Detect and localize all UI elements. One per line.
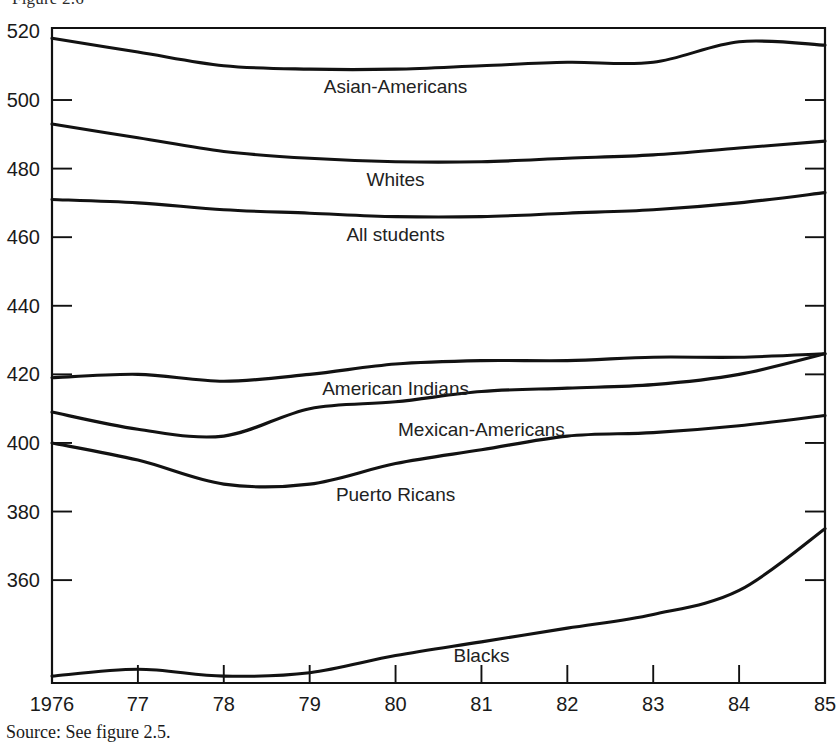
x-tick-label: 82: [556, 693, 578, 715]
x-tick-label: 85: [814, 693, 836, 715]
x-tick-label: 80: [384, 693, 406, 715]
x-axis-ticks: [138, 665, 739, 683]
x-tick-label: 84: [728, 693, 750, 715]
source-note: Source: See figure 2.5.: [6, 722, 170, 743]
series-label: All students: [346, 224, 444, 245]
y-axis-ticks-right: [805, 100, 825, 580]
series-label: American Indians: [322, 378, 469, 399]
y-tick-label: 400: [7, 432, 40, 454]
x-tick-label: 77: [127, 693, 149, 715]
y-axis-ticks: [52, 100, 72, 580]
series-label: Asian-Americans: [324, 76, 468, 97]
x-tick-label: 79: [299, 693, 321, 715]
series-label: Blacks: [453, 645, 509, 666]
x-tick-label: 81: [470, 693, 492, 715]
y-tick-label: 480: [7, 158, 40, 180]
figure-container: Figure 2.6 520500480460440420400380360 1…: [0, 0, 839, 746]
plot-frame: [52, 28, 825, 683]
series-line: [52, 124, 825, 162]
y-tick-label: 440: [7, 295, 40, 317]
y-tick-label: 520: [7, 20, 40, 42]
line-chart: 520500480460440420400380360 197677787980…: [0, 0, 839, 746]
y-tick-label: 460: [7, 226, 40, 248]
series-label: Mexican-Americans: [398, 419, 565, 440]
x-tick-label: 78: [213, 693, 235, 715]
series-lines: [52, 38, 825, 676]
series-line: [52, 38, 825, 69]
y-tick-label: 420: [7, 363, 40, 385]
x-tick-label: 83: [642, 693, 664, 715]
series-label: Whites: [367, 169, 425, 190]
series-labels: Asian-AmericansWhitesAll studentsAmerica…: [322, 76, 565, 666]
x-axis-tick-labels: 1976777879808182838485: [30, 693, 836, 715]
y-axis-tick-labels: 520500480460440420400380360: [7, 20, 40, 591]
y-tick-label: 360: [7, 569, 40, 591]
y-tick-label: 380: [7, 501, 40, 523]
series-label: Puerto Ricans: [336, 484, 455, 505]
x-tick-label: 1976: [30, 693, 75, 715]
y-tick-label: 500: [7, 89, 40, 111]
series-line: [52, 193, 825, 217]
series-line: [52, 529, 825, 677]
